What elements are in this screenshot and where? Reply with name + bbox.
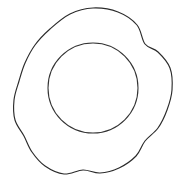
drawing-canvas: Scalloped plate outline xyxy=(0,0,188,183)
canvas-background xyxy=(0,0,188,183)
plate-line-drawing xyxy=(0,0,188,183)
